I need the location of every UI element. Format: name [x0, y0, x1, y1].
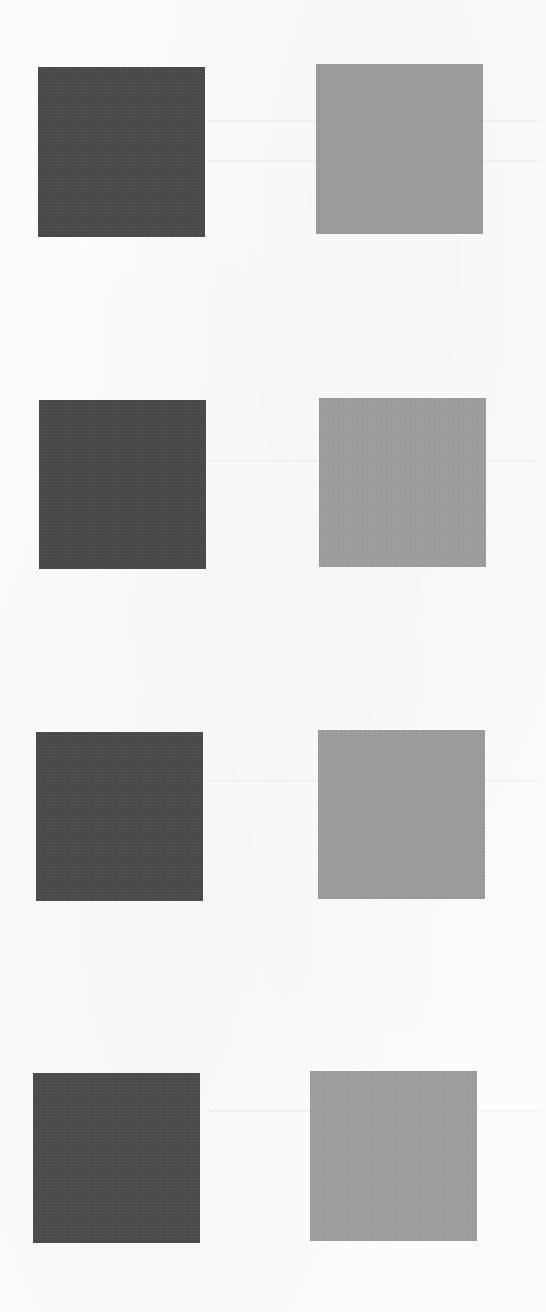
dark-gray-swatch	[38, 67, 205, 237]
medium-gray-swatch	[318, 730, 485, 899]
dark-gray-swatch	[33, 1073, 200, 1243]
dark-gray-swatch	[36, 732, 203, 901]
dark-gray-swatch	[39, 400, 206, 569]
scanned-page	[0, 0, 546, 1312]
medium-gray-swatch	[316, 64, 483, 234]
medium-gray-swatch	[310, 1071, 477, 1241]
medium-gray-swatch	[319, 398, 486, 567]
